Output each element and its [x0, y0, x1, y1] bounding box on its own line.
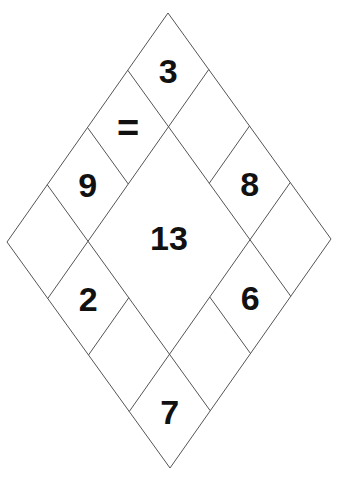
grid-line [48, 70, 209, 299]
cell-value: 9 [78, 166, 97, 204]
center-value: 13 [150, 219, 188, 257]
grid-line [129, 183, 290, 412]
grid-line [170, 239, 331, 468]
cell-value: 8 [240, 165, 259, 203]
cell-value: 2 [79, 280, 98, 318]
cell-value: 6 [241, 279, 260, 317]
cell-value: 3 [159, 52, 178, 90]
cell-value: 7 [160, 393, 179, 431]
grid-line [7, 13, 168, 242]
cell-value: = [117, 107, 139, 149]
number-diamond-puzzle: 38=6927 13 [0, 0, 340, 478]
